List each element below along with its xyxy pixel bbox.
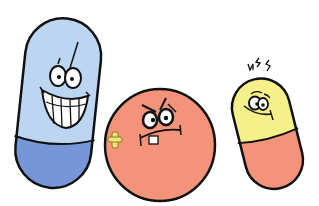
illustration-canvas <box>0 0 319 206</box>
round-tablet-character <box>105 89 215 201</box>
yellow-capsule-character <box>224 72 312 198</box>
dizzy-squiggles-icon <box>248 58 270 71</box>
illustration-scene <box>0 0 319 206</box>
